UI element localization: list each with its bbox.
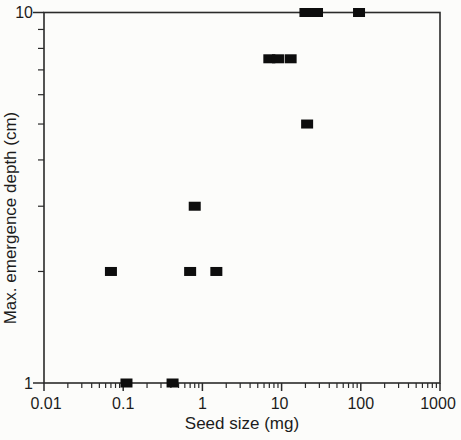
x-tick-label-0.01: 0.01 [30,395,61,412]
x-axis-ticks [44,383,440,391]
data-point-marker [285,54,297,63]
x-tick-label-1: 1 [198,395,207,412]
data-point-marker [210,267,222,276]
y-tick-label-10: 10 [15,4,33,21]
x-tick-label-10: 10 [271,395,289,412]
y-tick-label-1: 1 [24,375,33,392]
plot-area-border [44,13,440,384]
data-point-marker [272,54,284,63]
x-tick-label-1000: 1000 [420,395,456,412]
data-point-marker [120,379,132,388]
x-axis-title: Seed size (mg) [185,414,299,433]
data-points [105,8,365,388]
data-point-marker [167,379,179,388]
data-point-marker [301,120,313,129]
y-axis-ticks [33,13,44,384]
x-tick-label-100: 100 [347,395,374,412]
scatter-chart: 10 1 0.01 0.1 1 10 100 1000 Seed size (m… [0,0,461,440]
scatter-plot-figure: 10 1 0.01 0.1 1 10 100 1000 Seed size (m… [0,0,461,440]
data-point-marker [105,267,117,276]
data-point-marker [311,8,323,17]
data-point-marker [184,267,196,276]
data-point-marker [189,202,201,211]
x-tick-label-0.1: 0.1 [112,395,134,412]
data-point-marker [353,8,365,17]
data-point-marker [299,8,311,17]
y-axis-title: Max. emergence depth (cm) [1,112,20,325]
